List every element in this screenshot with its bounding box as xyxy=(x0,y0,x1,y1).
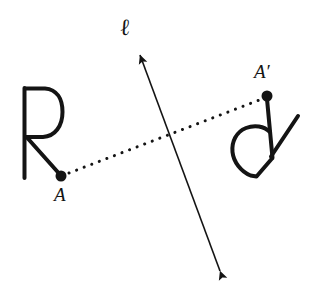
letter-r-original xyxy=(25,88,63,178)
mirror-line-l xyxy=(140,55,220,271)
letter-r-bowl xyxy=(26,89,63,138)
letter-r-image-leg xyxy=(271,116,298,157)
point-a-dot xyxy=(56,171,67,182)
line-l-label: ℓ xyxy=(119,16,131,40)
point-a-prime-label: A′ xyxy=(254,62,270,81)
reflection-figure xyxy=(0,0,319,291)
dotted-segment-A-to-Aprime xyxy=(69,99,262,173)
point-a-label: A xyxy=(54,185,66,204)
diagram-canvas: ℓ A A′ xyxy=(0,0,319,291)
letter-r-image-bowl xyxy=(232,126,272,176)
point-a-prime-dot xyxy=(262,91,273,102)
letter-r-leg xyxy=(27,137,60,174)
letter-r-image xyxy=(232,99,298,177)
